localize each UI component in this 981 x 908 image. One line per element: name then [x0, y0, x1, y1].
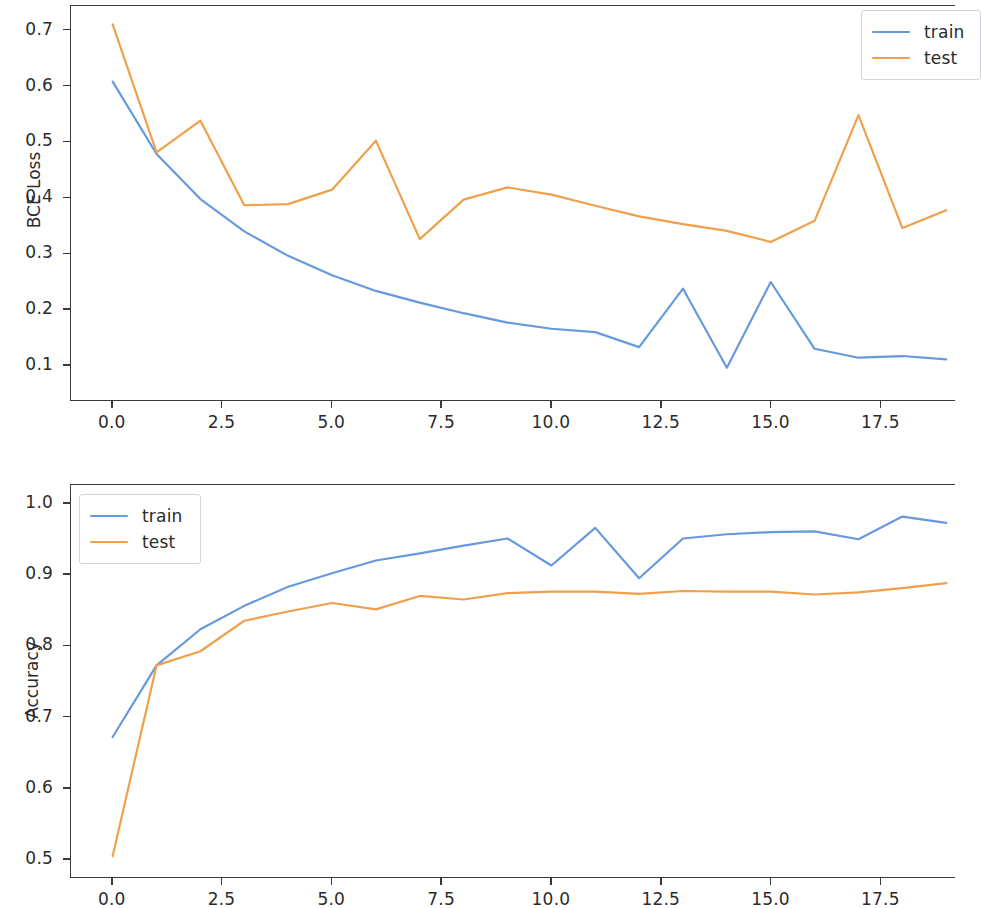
x-tick-mark	[880, 878, 882, 885]
accuracy-chart-panel: 0.50.60.70.80.91.0 0.02.55.07.510.012.51…	[0, 454, 951, 908]
accuracy-train-line	[113, 517, 947, 737]
x-tick-label: 7.5	[406, 889, 476, 908]
y-tick-label: 0.1	[0, 354, 53, 374]
x-tick-label: 17.5	[845, 412, 915, 432]
y-tick-mark	[63, 141, 70, 143]
loss-test-line	[113, 24, 947, 242]
legend-swatch-train	[90, 515, 128, 518]
x-tick-mark	[660, 401, 662, 408]
y-tick-mark	[63, 253, 70, 255]
legend-label-train: train	[924, 22, 965, 42]
x-tick-label: 15.0	[736, 412, 806, 432]
x-tick-mark	[221, 878, 223, 885]
x-tick-mark	[770, 878, 772, 885]
legend-label-test: test	[924, 48, 957, 68]
legend-swatch-test	[872, 57, 910, 60]
x-tick-mark	[660, 878, 662, 885]
x-tick-label: 7.5	[406, 412, 476, 432]
loss-plot-area	[70, 5, 955, 401]
x-tick-mark	[111, 401, 113, 408]
accuracy-lines-wrapper	[71, 485, 955, 877]
x-tick-mark	[331, 401, 333, 408]
x-tick-mark	[880, 401, 882, 408]
legend-entry-train: train	[872, 19, 966, 45]
x-tick-mark	[550, 401, 552, 408]
x-tick-label: 2.5	[187, 889, 257, 908]
x-tick-mark	[111, 878, 113, 885]
y-tick-label: 0.9	[0, 563, 53, 583]
y-tick-mark	[63, 502, 70, 504]
legend-label-test: test	[142, 532, 175, 552]
legend-entry-test: test	[90, 529, 186, 555]
y-tick-label: 0.2	[0, 298, 53, 318]
x-tick-label: 0.0	[77, 889, 147, 908]
loss-legend: train test	[861, 10, 981, 80]
accuracy-test-line	[113, 583, 947, 856]
x-tick-label: 10.0	[516, 412, 586, 432]
loss-train-line	[113, 82, 947, 368]
x-tick-mark	[221, 401, 223, 408]
legend-swatch-train	[872, 31, 910, 34]
y-tick-mark	[63, 858, 70, 860]
x-tick-mark	[770, 401, 772, 408]
x-tick-label: 10.0	[516, 889, 586, 908]
x-tick-mark	[331, 878, 333, 885]
x-tick-label: 15.0	[736, 889, 806, 908]
y-tick-mark	[63, 308, 70, 310]
y-tick-mark	[63, 787, 70, 789]
loss-chart-panel: 0.10.20.30.40.50.60.7 0.02.55.07.510.012…	[0, 0, 951, 454]
x-tick-label: 12.5	[626, 889, 696, 908]
y-tick-label: 0.6	[0, 75, 53, 95]
x-tick-mark	[440, 878, 442, 885]
loss-y-axis-title: BCE Loss	[24, 110, 44, 270]
x-tick-label: 5.0	[296, 889, 366, 908]
y-tick-mark	[63, 573, 70, 575]
loss-series-svg	[71, 6, 955, 400]
accuracy-y-axis-title: Accuracy	[22, 600, 42, 760]
y-tick-mark	[63, 197, 70, 199]
accuracy-legend: train test	[79, 494, 201, 564]
y-tick-label: 0.5	[0, 848, 53, 868]
y-tick-mark	[63, 364, 70, 366]
x-tick-label: 0.0	[77, 412, 147, 432]
x-tick-label: 2.5	[187, 412, 257, 432]
legend-label-train: train	[142, 506, 183, 526]
y-tick-mark	[63, 716, 70, 718]
accuracy-series-svg	[71, 485, 955, 877]
accuracy-plot-area	[70, 484, 955, 878]
x-tick-label: 17.5	[845, 889, 915, 908]
y-tick-mark	[63, 645, 70, 647]
y-tick-label: 0.6	[0, 777, 53, 797]
y-tick-mark	[63, 29, 70, 31]
x-tick-label: 5.0	[296, 412, 366, 432]
legend-swatch-test	[90, 541, 128, 544]
x-tick-label: 12.5	[626, 412, 696, 432]
y-tick-label: 1.0	[0, 492, 53, 512]
y-tick-label: 0.7	[0, 19, 53, 39]
x-tick-mark	[550, 878, 552, 885]
x-tick-mark	[440, 401, 442, 408]
legend-entry-test: test	[872, 45, 966, 71]
y-tick-mark	[63, 85, 70, 87]
loss-lines-wrapper	[71, 6, 955, 400]
legend-entry-train: train	[90, 503, 186, 529]
